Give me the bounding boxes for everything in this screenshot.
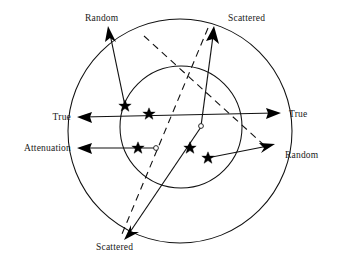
random-event-upper-left-star xyxy=(119,100,131,112)
true-horizontal-ray xyxy=(83,113,275,117)
random-event-lower-right-star xyxy=(184,142,196,154)
pet-coincidence-diagram: Random Scattered True True Attenuation R… xyxy=(0,0,341,256)
annihilation-origin-dot xyxy=(154,146,159,151)
dashed-line-upper-left-to-lower-right xyxy=(144,36,265,146)
label-scattered-top: Scattered xyxy=(228,13,265,23)
scattered-ray-upper-right xyxy=(201,36,213,126)
dashed-line-scattered-to-bottom xyxy=(122,28,208,234)
outer-circle xyxy=(68,19,292,243)
label-scattered-bottom: Scattered xyxy=(96,242,133,252)
random-event-lower-right-star-2 xyxy=(202,152,214,164)
attenuation-event-star xyxy=(132,142,144,154)
true-event-center-star xyxy=(143,108,155,120)
label-true-left: True xyxy=(53,112,71,122)
attenuation-left-arrowhead xyxy=(77,143,92,154)
label-random-top: Random xyxy=(85,13,119,23)
true-right-arrowhead xyxy=(266,108,281,119)
true-left-arrowhead xyxy=(77,112,92,123)
random-ray-upper-left xyxy=(110,34,125,106)
label-random-right: Random xyxy=(285,150,319,160)
label-attenuation-left: Attenuation xyxy=(24,143,71,153)
random-ray-lower-right xyxy=(207,146,268,158)
label-true-right: True xyxy=(289,109,307,119)
scatter-origin-dot xyxy=(199,124,204,129)
random-upper-left-arrowhead xyxy=(105,26,116,42)
inner-circle xyxy=(120,66,242,188)
scattered-lower-left-arrowhead xyxy=(124,225,139,240)
random-lower-right-arrowhead xyxy=(259,143,275,153)
diagram-canvas: Random Scattered True True Attenuation R… xyxy=(0,0,341,256)
